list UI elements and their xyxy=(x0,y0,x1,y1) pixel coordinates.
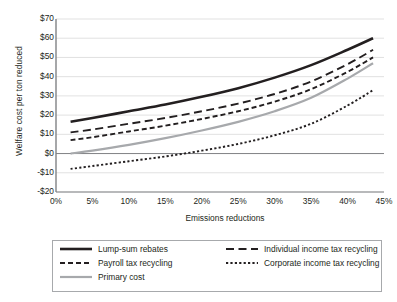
x-tick-label: 15% xyxy=(147,196,183,206)
legend-label: Corporate income tax recycling xyxy=(264,258,379,268)
legend-item: Payroll tax recycling xyxy=(59,258,172,268)
chart-legend: Lump-sum rebatesIndividual income tax re… xyxy=(52,240,382,292)
series-line-lump-sum-rebates xyxy=(71,38,373,122)
x-axis-title: Emissions reductions xyxy=(60,213,390,223)
legend-line-swatch xyxy=(59,244,93,254)
legend-label: Payroll tax recycling xyxy=(98,258,172,268)
grid-lines xyxy=(56,19,384,192)
x-tick-label: 45% xyxy=(366,196,397,206)
legend-item: Lump-sum rebates xyxy=(59,244,168,254)
legend-label: Lump-sum rebates xyxy=(98,244,168,254)
legend-label: Primary cost xyxy=(98,272,145,282)
legend-item: Corporate income tax recycling xyxy=(225,258,379,268)
series-line-payroll-tax-recycling xyxy=(71,57,373,140)
x-tick-label: 40% xyxy=(330,196,366,206)
legend-line-swatch xyxy=(59,258,93,268)
x-tick-label: 30% xyxy=(257,196,293,206)
x-tick-label: 0% xyxy=(38,196,74,206)
legend-item: Individual income tax recycling xyxy=(225,244,378,254)
x-tick-label: 5% xyxy=(74,196,110,206)
series-line-corporate-income-tax-recycling xyxy=(71,90,373,169)
legend-item: Primary cost xyxy=(59,272,145,282)
x-tick-label: 35% xyxy=(293,196,329,206)
legend-line-swatch xyxy=(59,272,93,282)
x-tick-label: 20% xyxy=(184,196,220,206)
legend-line-swatch xyxy=(225,258,259,268)
x-tick-label: 25% xyxy=(220,196,256,206)
legend-label: Individual income tax recycling xyxy=(264,244,378,254)
x-tick-label: 10% xyxy=(111,196,147,206)
legend-line-swatch xyxy=(225,244,259,254)
